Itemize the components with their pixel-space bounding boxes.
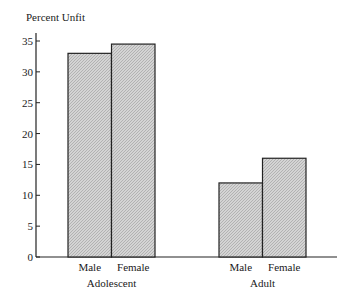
bar-adolescent-male — [68, 53, 112, 257]
group-label: Adolescent — [87, 277, 136, 289]
y-tick-label: 30 — [22, 66, 34, 78]
x-axis-labels: MaleFemaleAdolescentMaleFemaleAdult — [78, 261, 300, 289]
bar-adult-male — [219, 183, 263, 257]
bar-chart: Percent Unfit 05101520253035 MaleFemaleA… — [0, 0, 349, 301]
y-tick-label: 0 — [28, 251, 34, 263]
bar-adult-female — [263, 158, 307, 257]
x-tick-label: Male — [78, 261, 101, 273]
bars — [68, 44, 306, 257]
x-tick-label: Female — [117, 261, 149, 273]
group-label: Adult — [250, 277, 275, 289]
y-tick-label: 35 — [22, 35, 34, 47]
x-tick-label: Male — [229, 261, 252, 273]
bar-adolescent-female — [112, 44, 156, 257]
y-tick-label: 25 — [22, 97, 34, 109]
y-tick-label: 15 — [22, 158, 34, 170]
y-tick-label: 20 — [22, 128, 34, 140]
x-tick-label: Female — [268, 261, 300, 273]
y-tick-label: 10 — [22, 189, 34, 201]
y-axis-label: Percent Unfit — [26, 11, 85, 23]
y-tick-label: 5 — [28, 220, 34, 232]
